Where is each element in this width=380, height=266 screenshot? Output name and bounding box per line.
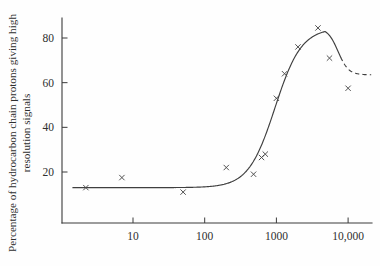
data-point-marker [181, 190, 186, 195]
figure-container: Percentage of hydrocarbon chain protons … [0, 0, 380, 266]
data-point-markers [83, 26, 350, 195]
data-point-marker [251, 172, 256, 177]
x-axis-ticks: 10100100010,000 [127, 218, 364, 244]
data-point-marker [327, 56, 332, 61]
data-point-marker [224, 165, 229, 170]
x-tick-label: 10 [127, 230, 139, 242]
x-tick-label: 10,000 [332, 230, 364, 243]
data-point-marker [346, 86, 351, 91]
fitted-curve-solid [73, 32, 341, 188]
chart-plot-area: 20406080 10100100010,000 [0, 0, 380, 266]
fitted-curve [73, 32, 371, 188]
fitted-curve-dashed [341, 57, 372, 75]
y-tick-label: 20 [43, 166, 55, 178]
y-tick-label: 60 [43, 77, 55, 89]
data-point-marker [296, 45, 301, 50]
axes [62, 18, 372, 223]
data-point-marker [316, 26, 321, 31]
x-tick-label: 1000 [265, 230, 288, 242]
y-tick-label: 40 [43, 121, 55, 133]
x-tick-label: 100 [196, 230, 214, 242]
data-point-marker [119, 175, 124, 180]
y-axis-ticks: 20406080 [43, 32, 68, 178]
y-tick-label: 80 [43, 32, 55, 44]
data-point-marker [263, 152, 268, 157]
data-point-marker [282, 71, 287, 76]
